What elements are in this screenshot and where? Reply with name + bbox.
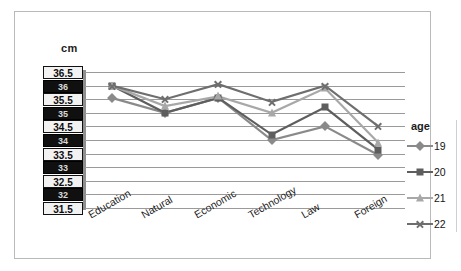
y-axis-tick-label: 35.5 xyxy=(43,93,83,106)
legend-line xyxy=(407,171,433,173)
chart-frame: cm 36.53635.53534.53433.53332.53231.5 Ed… xyxy=(14,11,431,259)
legend-swatch-21 xyxy=(407,191,433,205)
y-axis-tick-labels: 36.53635.53534.53433.53332.53231.5 xyxy=(43,66,83,214)
legend-item-22[interactable]: 22 xyxy=(407,216,461,232)
legend-title: age xyxy=(411,120,430,132)
y-axis-tick-label: 36.5 xyxy=(43,66,83,79)
plot-area xyxy=(85,72,405,208)
legend-item-20[interactable]: 20 xyxy=(407,164,461,180)
legend-item-19[interactable]: 19 xyxy=(407,138,461,154)
legend-label-22: 22 xyxy=(434,218,446,230)
x-axis-category-labels: EducationNaturalEconomicTechnologyLawFor… xyxy=(85,210,405,271)
legend-line xyxy=(407,145,433,147)
y-axis-unit-label: cm xyxy=(61,42,78,54)
legend-swatch-20 xyxy=(407,165,433,179)
y-axis-tick-label: 36 xyxy=(43,80,83,93)
legend-swatch-19 xyxy=(407,139,433,153)
legend-line xyxy=(407,223,433,225)
y-axis-tick-label: 32 xyxy=(43,188,83,201)
legend-item-21[interactable]: 21 xyxy=(407,190,461,206)
legend-line xyxy=(407,197,433,199)
y-axis-tick-label: 35 xyxy=(43,107,83,120)
legend-label-19: 19 xyxy=(434,140,446,152)
chart-legend: age 19202122 xyxy=(407,120,461,232)
y-axis-tick-label: 34.5 xyxy=(43,120,83,133)
y-axis-tick-label: 33 xyxy=(43,161,83,174)
legend-label-21: 21 xyxy=(434,192,446,204)
series-lines xyxy=(85,72,405,208)
legend-swatch-22 xyxy=(407,217,433,231)
y-axis-tick-label: 33.5 xyxy=(43,148,83,161)
y-axis-tick-label: 34 xyxy=(43,134,83,147)
y-axis-tick-label: 31.5 xyxy=(43,202,83,215)
legend-label-20: 20 xyxy=(434,166,446,178)
y-axis-tick-label: 32.5 xyxy=(43,175,83,188)
